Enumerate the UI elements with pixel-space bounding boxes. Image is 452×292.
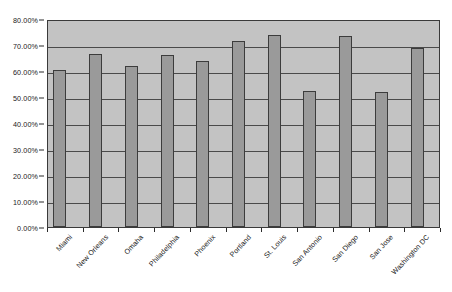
x-tick-label-text: New Orleans: [74, 233, 110, 270]
x-tick-label: Miami: [55, 234, 75, 255]
x-tick-mark: [440, 228, 441, 232]
y-tick-label: 40.00%: [13, 120, 38, 129]
y-tick-label: 20.00%: [13, 172, 38, 181]
y-tick-mark: [39, 150, 44, 151]
x-tick-label-text: San Jose: [368, 233, 396, 262]
bar-chart: 80.00%70.00%60.00%50.00%40.00%30.00%20.0…: [0, 0, 452, 292]
bar[interactable]: [125, 66, 138, 227]
bars-group: [48, 21, 439, 227]
y-tick-mark: [39, 202, 44, 203]
bar[interactable]: [196, 61, 209, 227]
x-tick-label: Portland: [229, 234, 254, 260]
x-tick-label: Philadelphia: [148, 234, 182, 270]
x-tick-label-text: Phoenix: [192, 233, 217, 259]
bar[interactable]: [303, 91, 316, 228]
y-tick-label: 50.00%: [13, 94, 38, 103]
x-tick-label: New Orleans: [75, 234, 111, 271]
y-tick-label: 80.00%: [13, 16, 38, 25]
x-tick-label: St. Louis: [264, 234, 290, 261]
x-tick-mark: [226, 228, 227, 232]
y-tick-mark: [39, 20, 44, 21]
y-tick-label: 30.00%: [13, 146, 38, 155]
bar[interactable]: [232, 41, 245, 227]
y-tick-label: 60.00%: [13, 68, 38, 77]
y-tick-label: 70.00%: [13, 42, 38, 51]
x-tick-mark: [118, 228, 119, 232]
x-tick-label-text: San Diego: [330, 233, 360, 264]
x-tick-label-text: Philadelphia: [147, 233, 181, 269]
x-tick-mark: [297, 228, 298, 232]
bar[interactable]: [161, 55, 174, 227]
x-tick-label: Phoenix: [194, 234, 219, 260]
y-tick-label: 10.00%: [13, 198, 38, 207]
x-tick-mark: [83, 228, 84, 232]
bar[interactable]: [375, 92, 388, 227]
x-tick-label: Omaha: [124, 234, 147, 258]
x-tick-label-text: Miami: [54, 233, 74, 254]
x-tick-label-text: Omaha: [122, 233, 145, 257]
plot-area: [47, 20, 440, 228]
x-tick-mark: [261, 228, 262, 232]
y-tick-mark: [39, 98, 44, 99]
x-tick-label: San Jose: [369, 234, 397, 263]
y-tick-mark: [39, 46, 44, 47]
x-tick-mark: [154, 228, 155, 232]
x-tick-label-text: San Antonio: [290, 233, 324, 268]
y-tick-mark: [39, 176, 44, 177]
x-tick-mark: [190, 228, 191, 232]
x-tick-label-text: Portland: [227, 233, 252, 259]
bar[interactable]: [339, 36, 352, 227]
bar[interactable]: [268, 35, 281, 227]
x-tick-label-text: St. Louis: [262, 233, 288, 260]
x-tick-label: San Diego: [331, 234, 361, 265]
x-tick-mark: [404, 228, 405, 232]
x-tick-mark: [333, 228, 334, 232]
x-axis: MiamiNew OrleansOmahaPhiladelphiaPhoenix…: [0, 228, 452, 292]
bar[interactable]: [411, 48, 424, 227]
x-tick-mark: [47, 228, 48, 232]
bar[interactable]: [53, 70, 66, 227]
bar[interactable]: [89, 54, 102, 227]
y-tick-mark: [39, 124, 44, 125]
y-tick-mark: [39, 72, 44, 73]
x-tick-label: Washington DC: [391, 234, 433, 278]
x-tick-mark: [369, 228, 370, 232]
x-tick-label: San Antonio: [292, 234, 326, 269]
